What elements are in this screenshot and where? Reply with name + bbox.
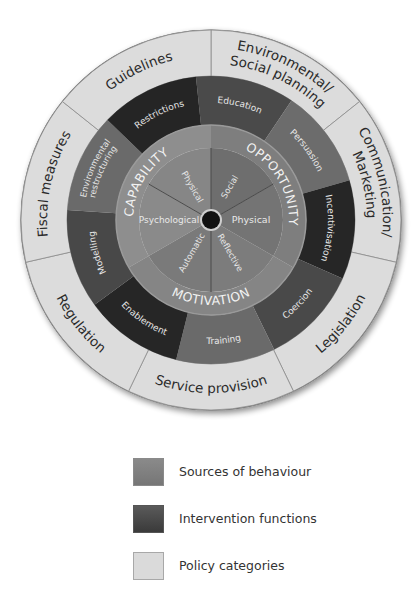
source-sub-label-capability-psychological: Psychological xyxy=(139,215,200,225)
source-sub-label-opportunity-physical: Physical xyxy=(232,214,271,225)
legend-item-sources: Sources of behaviour xyxy=(133,458,393,488)
policy-swatch xyxy=(133,552,164,580)
legend-item-intervention: Intervention functions xyxy=(133,505,393,535)
legend-label: Policy categories xyxy=(179,558,284,573)
center-hub-icon xyxy=(200,209,222,231)
intervention-swatch xyxy=(133,505,164,533)
legend-label: Sources of behaviour xyxy=(179,464,311,479)
legend-label: Intervention functions xyxy=(179,511,317,526)
behaviour-change-wheel: Environmental/Social planningCommunicati… xyxy=(0,0,419,440)
legend-item-policy: Policy categories xyxy=(133,552,393,582)
sources-swatch xyxy=(133,458,164,486)
